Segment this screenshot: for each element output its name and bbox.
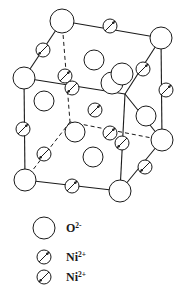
legend-element-symbol: Ni xyxy=(66,270,79,284)
nickel-ion-ni-inner-right-lower xyxy=(115,136,129,150)
oxygen-ion-o-face-inner-top xyxy=(111,63,133,85)
oxygen-ion-o-face-front-upper xyxy=(34,91,54,111)
oxygen-ion-o-bottom-front-right xyxy=(109,180,131,202)
nickel-ion-ni-inner-left xyxy=(37,147,51,161)
nickel-ion-ni-bottom-edge xyxy=(65,179,79,193)
nickel-ion-ni-upper-left-edge xyxy=(36,43,50,57)
legend-symbol-large-open-circle xyxy=(33,217,55,239)
oxygen-ion-o-mid-left xyxy=(13,67,35,89)
legend-charge: 2- xyxy=(75,221,82,230)
legend: O2-Ni2+Ni2+ xyxy=(33,217,86,284)
nickel-ion-ni-left-edge xyxy=(16,122,30,136)
nickel-ion-ni-body-center xyxy=(88,103,102,117)
oxygen-ion-o-face-center-right xyxy=(136,106,156,126)
crystal-diagram: O2-Ni2+Ni2+ xyxy=(0,0,183,295)
oxygen-ion-o-mid-right xyxy=(151,129,173,151)
legend-label-nickel-up: Ni2+ xyxy=(66,250,86,265)
nickel-ion-ni-upper-right-edge xyxy=(136,62,150,76)
nio-crystal-structure-figure: O2-Ni2+Ni2+ xyxy=(0,0,183,295)
legend-item-oxygen: O2- xyxy=(33,217,82,239)
oxygen-ion-o-face-top xyxy=(84,50,104,70)
nickel-ion-ni-lower-right-edge xyxy=(138,160,152,174)
oxygen-ion-o-top-back-right xyxy=(150,27,172,49)
oxygen-ion-o-face-front-lower xyxy=(83,147,103,167)
legend-element-symbol: Ni xyxy=(66,250,79,264)
legend-label-oxygen: O2- xyxy=(66,221,82,236)
nickel-ion-ni-top-edge xyxy=(103,19,117,33)
nickel-ion-ni-right-edge-upper xyxy=(159,83,173,97)
nickel-ion-ni-inner-right-upper xyxy=(103,126,117,140)
legend-label-nickel-down: Ni2+ xyxy=(66,270,86,285)
legend-item-nickel-down: Ni2+ xyxy=(37,270,86,285)
oxygen-ion-o-face-inner-left xyxy=(65,122,85,142)
legend-item-nickel-up: Ni2+ xyxy=(37,250,86,265)
legend-element-symbol: O xyxy=(66,221,75,235)
nickel-ion-ni-back-hidden-lower xyxy=(65,81,79,95)
oxygen-ion-o-top-front-left xyxy=(50,9,74,33)
legend-charge: 2+ xyxy=(78,250,86,259)
oxygen-ion-o-bottom-left xyxy=(14,169,36,191)
legend-charge: 2+ xyxy=(78,270,86,279)
